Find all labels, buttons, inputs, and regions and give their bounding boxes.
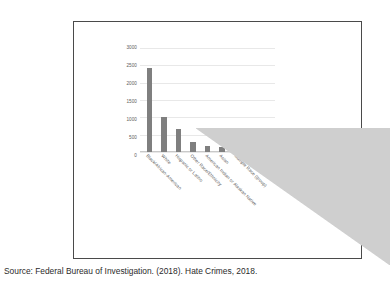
y-axis-tick-label: 1000 xyxy=(126,118,137,123)
bar-series xyxy=(140,48,275,152)
bar xyxy=(219,147,225,152)
y-axis-tick-label: 0 xyxy=(134,154,137,159)
bar xyxy=(147,68,153,152)
y-axis-tick-label: 3000 xyxy=(126,46,137,51)
y-axis: 050010001500200025003000 xyxy=(112,48,137,156)
bar xyxy=(234,148,240,152)
bar xyxy=(248,149,254,152)
x-axis-category-label: Asian xyxy=(218,154,229,165)
bar xyxy=(176,129,182,152)
bar xyxy=(190,142,196,152)
x-axis-category-label: Arab xyxy=(247,154,257,164)
bar-slot xyxy=(186,48,201,152)
plot-area xyxy=(140,48,275,152)
bar xyxy=(263,151,269,152)
bar-slot xyxy=(215,48,230,152)
bar-slot xyxy=(142,48,157,152)
bar-slot xyxy=(259,48,274,152)
bar-slot xyxy=(200,48,215,152)
y-axis-tick-label: 2500 xyxy=(126,64,137,69)
x-axis-category-label: White xyxy=(160,154,172,166)
x-axis-category-label: Hispanic or Latino xyxy=(174,154,203,183)
bar-slot xyxy=(171,48,186,152)
bar-slot xyxy=(229,48,244,152)
y-axis-tick-label: 500 xyxy=(129,136,137,141)
bar-chart-figure: 050010001500200025003000 Black/African-A… xyxy=(74,22,363,260)
bar-slot xyxy=(244,48,259,152)
x-axis-labels: Black/African-AmericanWhiteHispanic or L… xyxy=(140,154,300,224)
source-caption: Source: Federal Bureau of Investigation.… xyxy=(4,266,257,276)
bar xyxy=(161,117,167,152)
x-axis-category-label: Hawaiian/Pacific Islander xyxy=(262,154,302,194)
y-axis-tick-label: 1500 xyxy=(126,100,137,105)
bar xyxy=(205,146,211,152)
bar-slot xyxy=(157,48,172,152)
document-frame: 050010001500200025003000 Black/African-A… xyxy=(73,21,362,259)
y-axis-tick-label: 2000 xyxy=(126,82,137,87)
